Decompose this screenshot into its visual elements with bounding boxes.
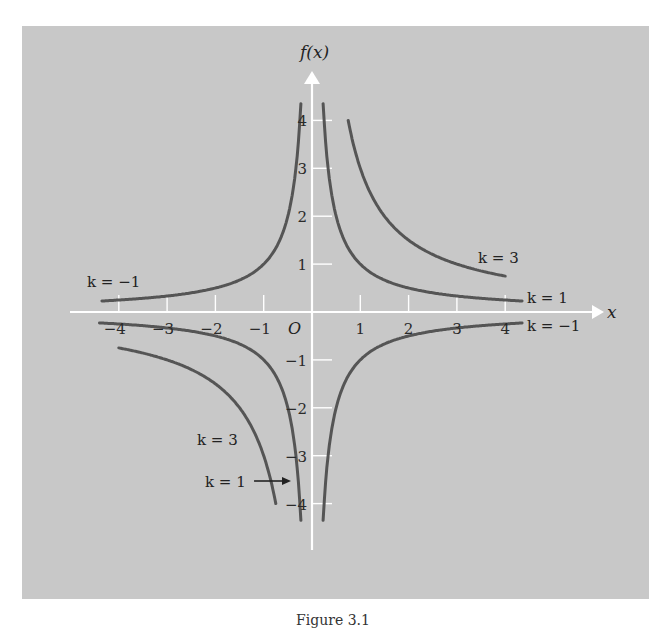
y-tick-label: 4 xyxy=(297,112,307,130)
y-axis-arrow-icon xyxy=(304,71,320,84)
label-k3-lower-left: k = 3 xyxy=(197,431,238,449)
label-k1-lower-left: k = 1 xyxy=(205,473,246,491)
curve-k-1 xyxy=(100,323,301,520)
x-tick-label: 3 xyxy=(452,320,462,338)
y-tick-label: 3 xyxy=(297,160,307,178)
y-tick-label: 2 xyxy=(297,208,307,226)
y-axis-label: f(x) xyxy=(298,42,329,62)
x-tick-label: 1 xyxy=(356,320,366,338)
x-tick-label: −4 xyxy=(104,320,126,338)
x-tick-label: 2 xyxy=(404,320,414,338)
axes xyxy=(70,71,604,550)
y-tick-label: −4 xyxy=(285,496,307,514)
curve-k-3 xyxy=(119,348,276,504)
label-k-neg1-lower-right: k = −1 xyxy=(527,317,580,335)
x-tick-label: −2 xyxy=(200,320,222,338)
label-k-neg1-upper-left: k = −1 xyxy=(87,273,140,291)
y-tick-label: 1 xyxy=(297,256,307,274)
curve-k-1 xyxy=(323,323,522,520)
x-tick-label: 4 xyxy=(500,320,510,338)
x-tick-label: −3 xyxy=(152,320,174,338)
x-axis-label: x xyxy=(607,302,617,322)
y-tick-label: −3 xyxy=(285,448,307,466)
label-k3-upper-right: k = 3 xyxy=(478,249,519,267)
y-tick-label: −2 xyxy=(285,400,307,418)
label-k1-upper-right: k = 1 xyxy=(527,289,568,307)
origin-label: O xyxy=(288,319,301,338)
y-tick-label: −1 xyxy=(285,352,307,370)
figure-caption: Figure 3.1 xyxy=(0,612,666,628)
curve-k-1 xyxy=(323,104,522,301)
curve-k-1 xyxy=(102,104,301,301)
x-axis-arrow-icon xyxy=(592,305,604,319)
x-tick-label: −1 xyxy=(249,320,271,338)
